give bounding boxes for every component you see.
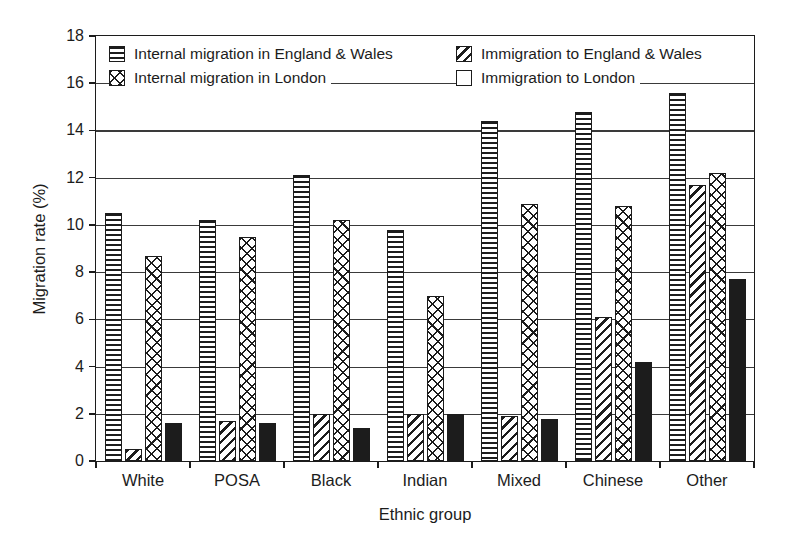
legend-item-diagonal-stripes: Immigration to England & Wales	[456, 44, 707, 63]
y-tick-6	[89, 319, 96, 321]
legend-swatch-diagonal-stripes-icon	[456, 46, 472, 62]
x-tick-4	[471, 461, 473, 468]
y-tick-label-10: 10	[66, 217, 84, 233]
x-category-label-mixed: Mixed	[497, 471, 541, 490]
legend-item-solid-black: Immigration to London	[456, 68, 640, 87]
x-category-label-posa: POSA	[214, 471, 260, 490]
x-category-label-other: Other	[686, 471, 727, 490]
x-category-label-chinese: Chinese	[583, 471, 644, 490]
migration-rate-bar-chart: 024681012141618 WhitePOSABlackIndianMixe…	[0, 0, 796, 549]
legend-swatch-crosshatch-icon	[109, 70, 125, 86]
legend-label: Immigration to England & Wales	[481, 45, 702, 63]
y-tick-18	[89, 35, 96, 37]
y-tick-10	[89, 224, 96, 226]
y-tick-label-2: 2	[75, 405, 84, 421]
legend-label: Internal migration in London	[134, 69, 326, 87]
y-tick-label-8: 8	[75, 264, 84, 280]
x-tick-2	[283, 461, 285, 468]
x-tick-6	[659, 461, 661, 468]
y-tick-label-16: 16	[66, 75, 84, 91]
x-tick-0	[95, 461, 97, 468]
y-tick-2	[89, 413, 96, 415]
y-tick-8	[89, 271, 96, 273]
y-tick-label-18: 18	[66, 28, 84, 44]
legend: Internal migration in England & WalesInt…	[96, 36, 754, 461]
y-tick-label-12: 12	[66, 169, 84, 185]
y-tick-label-0: 0	[75, 453, 84, 469]
legend-swatch-horizontal-stripes-icon	[109, 46, 125, 62]
x-axis-title: Ethnic group	[96, 505, 754, 524]
x-tick-3	[377, 461, 379, 468]
legend-label: Internal migration in England & Wales	[134, 45, 393, 63]
x-category-label-white: White	[122, 471, 164, 490]
y-axis-title: Migration rate (%)	[30, 183, 49, 314]
y-tick-16	[89, 82, 96, 84]
x-category-label-indian: Indian	[403, 471, 448, 490]
y-tick-12	[89, 177, 96, 179]
legend-item-crosshatch: Internal migration in London	[109, 68, 331, 87]
x-tick-5	[565, 461, 567, 468]
legend-item-horizontal-stripes: Internal migration in England & Wales	[109, 44, 398, 63]
y-tick-label-14: 14	[66, 122, 84, 138]
y-tick-4	[89, 366, 96, 368]
x-tick-7	[753, 461, 755, 468]
legend-swatch-solid-black-icon	[456, 70, 472, 86]
x-tick-1	[189, 461, 191, 468]
plot-area: 024681012141618 WhitePOSABlackIndianMixe…	[95, 35, 755, 462]
y-tick-label-6: 6	[75, 311, 84, 327]
x-category-label-black: Black	[311, 471, 351, 490]
legend-label: Immigration to London	[481, 69, 635, 87]
y-tick-label-4: 4	[75, 358, 84, 374]
y-tick-14	[89, 130, 96, 132]
